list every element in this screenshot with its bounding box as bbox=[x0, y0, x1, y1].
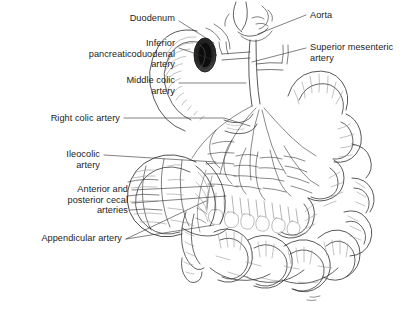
leader-aorta bbox=[258, 15, 306, 34]
label-line-3: artery bbox=[151, 59, 175, 69]
leader-appendicular-artery-b bbox=[126, 201, 206, 239]
figure-canvas: Duodenum Inferiorpancreaticoduodenalarte… bbox=[0, 0, 420, 314]
label-appendicular-artery: Appendicular artery bbox=[8, 233, 122, 244]
label-line-1: Anterior and bbox=[77, 184, 128, 194]
cecum-group bbox=[127, 155, 228, 237]
label-line-3: arteries bbox=[97, 205, 128, 215]
label-line-2: artery bbox=[151, 86, 175, 96]
leader-duodenum bbox=[179, 21, 214, 43]
label-inferior-pancreaticoduodenal-artery: Inferiorpancreaticoduodenalartery bbox=[25, 38, 175, 70]
label-superior-mesenteric-artery: Superior mesentericartery bbox=[310, 42, 418, 63]
label-anterior-posterior-cecal-arteries: Anterior andposterior cecalarteries bbox=[28, 184, 128, 216]
label-line-1: Ileocolic bbox=[66, 149, 100, 159]
aorta-group bbox=[225, 2, 273, 41]
label-right-colic-artery: Right colic artery bbox=[10, 113, 120, 124]
appendix-group bbox=[182, 162, 226, 283]
leader-posterior-cecal-artery bbox=[132, 196, 226, 203]
label-line-1: Superior mesenteric bbox=[310, 42, 393, 52]
leader-superior-mesenteric-artery bbox=[252, 48, 306, 62]
label-line-2: artery bbox=[310, 53, 334, 63]
label-line-1: Middle colic bbox=[126, 75, 175, 85]
label-line-2: posterior cecal bbox=[68, 195, 129, 205]
label-line-2: artery bbox=[76, 160, 100, 170]
transverse-colon-group bbox=[278, 71, 361, 238]
superior-mesenteric-artery-group bbox=[219, 40, 288, 106]
label-middle-colic-artery: Middle colicartery bbox=[55, 75, 175, 96]
label-line-1: Inferior bbox=[146, 38, 175, 48]
label-duodenum: Duodenum bbox=[55, 13, 175, 24]
mesentery-arcades-group bbox=[192, 106, 319, 236]
label-aorta: Aorta bbox=[310, 10, 410, 21]
label-ileocolic-artery: Ileocolicartery bbox=[20, 149, 100, 170]
label-line-2: pancreaticoduodenal bbox=[89, 49, 175, 59]
